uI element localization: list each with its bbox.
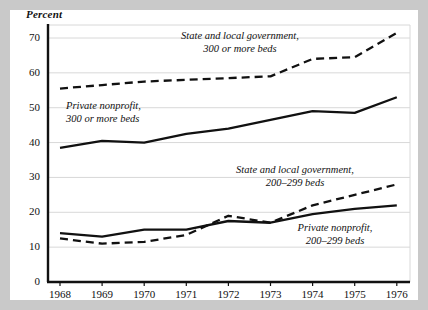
annotation-state-local-200: State and local government, 200–299 beds [205, 164, 385, 189]
annotation-state-local-300: State and local government, 300 or more … [150, 30, 330, 55]
annotation-line-1: State and local government, [150, 30, 330, 43]
annotation-line-1: State and local government, [205, 164, 385, 177]
y-tick-label-30: 30 [14, 170, 40, 182]
annotation-line-2: 200–299 beds [205, 177, 385, 190]
x-tick-label-1972: 1972 [206, 288, 250, 300]
annotation-private-200: Private nonprofit, 200–299 beds [265, 222, 405, 247]
figure-frame: Percent 010203040506070 1968196919701971… [0, 0, 428, 310]
x-tick-label-1968: 1968 [38, 288, 82, 300]
y-tick-label-40: 40 [14, 136, 40, 148]
annotation-line-2: 300 or more beds [150, 43, 330, 56]
y-tick-label-50: 50 [14, 101, 40, 113]
annotation-private-300: Private nonprofit, 300 or more beds [66, 100, 141, 125]
x-tick-label-1973: 1973 [249, 288, 293, 300]
x-tick-label-1975: 1975 [333, 288, 377, 300]
y-tick-label-10: 10 [14, 240, 40, 252]
x-tick-label-1970: 1970 [122, 288, 166, 300]
y-tick-label-0: 0 [14, 275, 40, 287]
annotation-line-1: Private nonprofit, [66, 100, 141, 113]
y-tick-label-20: 20 [14, 205, 40, 217]
annotation-line-2: 300 or more beds [66, 113, 141, 126]
y-tick-label-70: 70 [14, 31, 40, 43]
x-tick-label-1976: 1976 [375, 288, 419, 300]
x-tick-label-1974: 1974 [291, 288, 335, 300]
y-tick-label-60: 60 [14, 66, 40, 78]
annotation-line-2: 200–299 beds [265, 235, 405, 248]
x-tick-label-1969: 1969 [80, 288, 124, 300]
annotation-line-1: Private nonprofit, [265, 222, 405, 235]
x-tick-label-1971: 1971 [164, 288, 208, 300]
